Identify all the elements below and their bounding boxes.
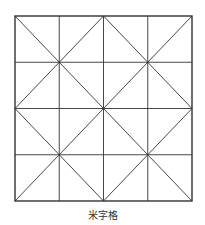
caption: 米字格: [0, 207, 205, 222]
mi-zi-ge-grid: [0, 0, 205, 205]
